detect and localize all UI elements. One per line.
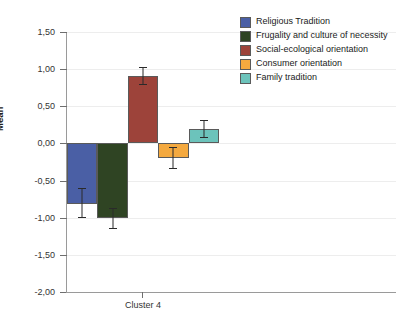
y-tick-label: 1,00: [37, 64, 55, 74]
y-tick-mark: [60, 106, 67, 107]
legend-swatch-icon: [240, 45, 251, 56]
error-bar-cap-bottom: [78, 217, 86, 218]
bar-chart: 1,501,000,500,00-0,50-1,00-1,50-2,00 Mea…: [0, 0, 401, 326]
error-bar-cap-bottom: [200, 137, 208, 138]
y-tick-label-wrap: 1,50: [0, 27, 57, 37]
y-tick-mark: [60, 181, 67, 182]
error-bar: [169, 147, 177, 169]
error-bar-stem: [173, 147, 174, 169]
bar: [128, 76, 158, 144]
gridline: [67, 255, 396, 256]
error-bar-cap-bottom: [139, 84, 147, 85]
legend-item[interactable]: Frugality and culture of necessity: [240, 30, 398, 42]
error-bar: [139, 67, 147, 85]
legend-item[interactable]: Family tradition: [240, 72, 398, 84]
y-tick-label-wrap: -0,50: [0, 176, 57, 186]
y-tick-mark: [60, 69, 67, 70]
error-bar-cap-top: [169, 147, 177, 148]
legend-item-label: Religious Tradition: [256, 16, 330, 27]
legend-item[interactable]: Consumer orientation: [240, 58, 398, 70]
error-bar-cap-bottom: [169, 168, 177, 169]
legend-item-label: Family tradition: [256, 72, 317, 83]
legend: Religious TraditionFrugality and culture…: [240, 16, 398, 86]
error-bar-cap-bottom: [109, 228, 117, 229]
error-bar-stem: [82, 188, 83, 218]
error-bar: [78, 188, 86, 218]
error-bar-cap-top: [200, 120, 208, 121]
legend-item[interactable]: Religious Tradition: [240, 16, 398, 28]
legend-item-label: Frugality and culture of necessity: [256, 30, 388, 41]
y-tick-label-wrap: 1,00: [0, 64, 57, 74]
y-tick-label-wrap: 0,50: [0, 101, 57, 111]
y-tick-label-wrap: -1,00: [0, 213, 57, 223]
error-bar-cap-top: [109, 208, 117, 209]
y-tick-label-wrap: 0,00: [0, 138, 57, 148]
y-tick-mark: [60, 218, 67, 219]
legend-item-label: Social-ecological orientation: [256, 44, 368, 55]
x-axis-category-label: Cluster 4: [92, 300, 194, 310]
y-tick-label-wrap: -1,50: [0, 250, 57, 260]
y-tick-label: -1,50: [34, 250, 55, 260]
y-tick-label: -1,00: [34, 213, 55, 223]
error-bar-cap-top: [139, 67, 147, 68]
gridline: [67, 106, 396, 107]
legend-swatch-icon: [240, 59, 251, 70]
y-tick-label: 0,50: [37, 101, 55, 111]
y-tick-label: -2,00: [34, 287, 55, 297]
legend-swatch-icon: [240, 73, 251, 84]
y-axis-title: Mean: [0, 107, 5, 131]
y-tick-label: 1,50: [37, 27, 55, 37]
legend-swatch-icon: [240, 17, 251, 28]
y-tick-mark: [60, 32, 67, 33]
y-tick-mark: [60, 143, 67, 144]
x-axis-line: [66, 292, 396, 293]
y-tick-mark: [60, 255, 67, 256]
y-tick-label: -0,50: [34, 176, 55, 186]
y-tick-label-wrap: -2,00: [0, 287, 57, 297]
legend-item-label: Consumer orientation: [256, 58, 342, 69]
y-tick-label: 0,00: [37, 138, 55, 148]
error-bar-stem: [143, 67, 144, 85]
legend-swatch-icon: [240, 31, 251, 42]
error-bar: [109, 208, 117, 229]
legend-item[interactable]: Social-ecological orientation: [240, 44, 398, 56]
error-bar-stem: [112, 208, 113, 229]
x-axis-tick-mark: [142, 292, 143, 298]
error-bar: [200, 120, 208, 139]
error-bar-stem: [203, 120, 204, 139]
error-bar-cap-top: [78, 188, 86, 189]
